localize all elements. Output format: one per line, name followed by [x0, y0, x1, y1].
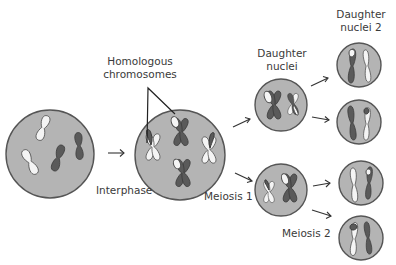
arrow-icon [311, 77, 328, 87]
daughter2-nucleus-2 [337, 100, 381, 144]
arrow-icon [108, 150, 124, 157]
interphase-cell [6, 110, 94, 198]
daughter-nucleus-bottom [255, 164, 307, 216]
daughter-nuclei-label-line2: nuclei [254, 60, 310, 73]
arrow-icon [313, 180, 330, 187]
interphase-label: Interphase [96, 184, 152, 197]
daughter-nuclei-2-label: Daughter nuclei 2 [333, 8, 389, 34]
daughter-nuclei-2-label-line1: Daughter [333, 8, 389, 21]
daughter2-nucleus-1 [337, 43, 381, 87]
arrow-icon [312, 210, 331, 219]
daughter2-nucleus-3 [339, 161, 383, 205]
homologous-chromosomes-label: Homologous chromosomes [101, 55, 179, 81]
arrow-icon [235, 173, 252, 183]
daughter2-nucleus-4 [339, 216, 383, 260]
daughter-nuclei-2-label-line2: nuclei 2 [333, 21, 389, 34]
homologous-label-line2: chromosomes [101, 68, 179, 81]
arrow-icon [233, 118, 250, 128]
homologous-label-line1: Homologous [101, 55, 179, 68]
daughter-nucleus-top [255, 79, 307, 131]
daughter-nuclei-label-line1: Daughter [254, 47, 310, 60]
daughter-nuclei-label: Daughter nuclei [254, 47, 310, 73]
meiosis2-label: Meiosis 2 [282, 227, 331, 240]
meiosis-diagram: Homologous chromosomes Interphase Meiosi… [0, 0, 396, 265]
meiosis1-label: Meiosis 1 [204, 190, 253, 203]
arrow-icon [312, 117, 329, 123]
